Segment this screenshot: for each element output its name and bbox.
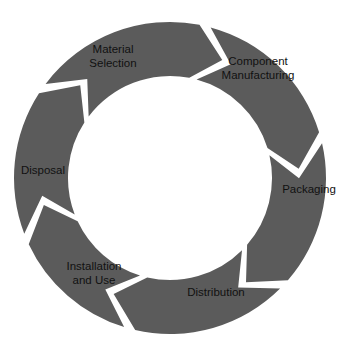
cycle-segments	[14, 22, 326, 334]
lifecycle-cycle-diagram: MaterialSelectionComponentManufacturingP…	[0, 0, 339, 346]
segment-packaging[interactable]	[246, 143, 326, 282]
segment-component-manufacturing[interactable]	[197, 27, 320, 168]
